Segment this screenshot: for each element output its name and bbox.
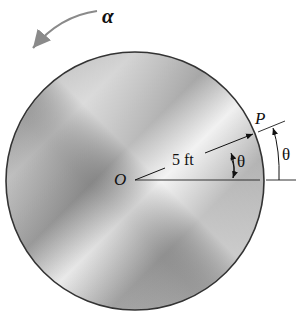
radius-label: 5 ft (172, 151, 194, 169)
theta-outer-label: θ (282, 145, 290, 165)
origin-label: O (114, 170, 126, 190)
alpha-label: α (102, 4, 114, 29)
outer-angle-arc (273, 128, 279, 180)
disk-diagram (0, 0, 296, 326)
angular-acceleration-arrow (33, 11, 97, 48)
theta-inner-label: θ (237, 152, 245, 172)
point-p-label: P (255, 109, 265, 129)
